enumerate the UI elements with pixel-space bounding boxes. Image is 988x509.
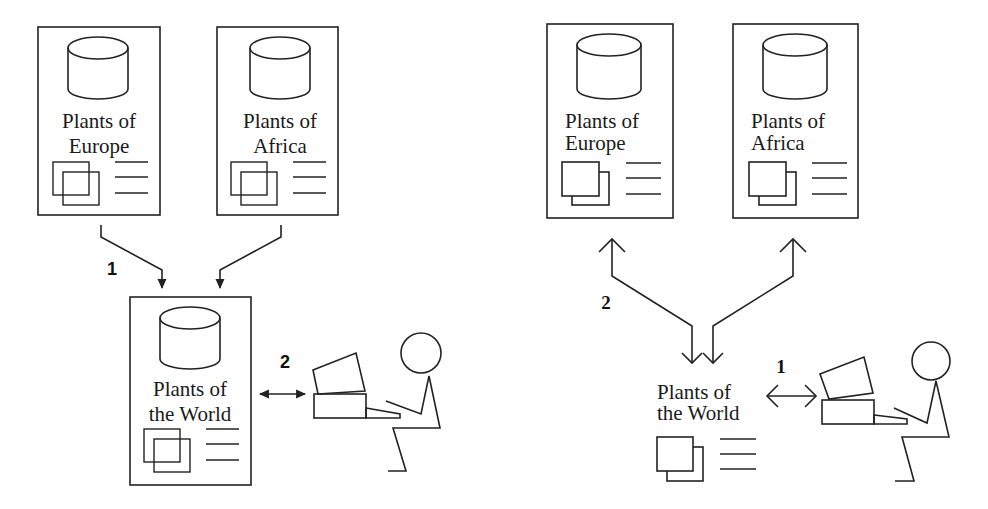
overlapping-squares-icon [657, 437, 703, 481]
source-title-line1: Plants of [751, 109, 825, 133]
user-at-computer-icon [820, 342, 950, 481]
overlapping-squares-icon [562, 162, 609, 205]
step-label-1: 1 [776, 356, 786, 377]
text-lines-icon [812, 163, 847, 194]
ingest-arrows [101, 225, 281, 288]
fanout-arrows [599, 239, 806, 363]
keyboard-icon [874, 415, 907, 424]
person-body-icon [386, 376, 440, 471]
source-title-line1: Plants of [62, 109, 136, 133]
aggregate-title-line2: the World [149, 402, 232, 426]
person-head-icon [401, 333, 441, 373]
source-title-line2: Europe [565, 131, 626, 155]
bidirectional-arrow [767, 385, 816, 407]
user-at-computer-icon [313, 333, 441, 471]
diagram-canvas: Plants of Europe Plants of Africa [0, 0, 988, 509]
source-title-line2: Africa [751, 131, 805, 155]
database-icon [577, 34, 641, 99]
database-icon [160, 307, 220, 369]
overlapping-squares-icon [231, 162, 277, 205]
left-panel: Plants of Europe Plants of Africa [38, 27, 441, 485]
overlapping-squares-icon [749, 162, 796, 205]
database-icon [763, 34, 827, 99]
person-body-icon [894, 381, 949, 481]
source-title-line2: Africa [253, 134, 307, 158]
source-title-line1: Plants of [565, 109, 639, 133]
source-title-line1: Plants of [243, 109, 317, 133]
source-card-africa: Plants of Africa [733, 24, 858, 218]
computer-base-icon [822, 400, 874, 424]
text-lines-icon [293, 162, 326, 193]
step-label-1: 1 [107, 259, 117, 279]
text-lines-icon [115, 162, 148, 193]
portal-title-line2: the World [657, 401, 740, 425]
person-head-icon [912, 342, 950, 380]
overlapping-squares-icon [144, 429, 190, 472]
aggregate-card-world: Plants of the World [130, 297, 251, 485]
text-lines-icon [720, 439, 756, 469]
source-card-europe: Plants of Europe [38, 27, 160, 215]
source-card-africa: Plants of Africa [217, 27, 338, 215]
source-card-europe: Plants of Europe [547, 24, 673, 218]
step-label-2: 2 [280, 352, 290, 372]
right-panel: Plants of Europe Plants of Africa [547, 24, 950, 481]
database-icon [250, 37, 310, 99]
overlapping-squares-icon [53, 162, 99, 205]
step-label-2: 2 [601, 292, 611, 313]
text-lines-icon [626, 163, 661, 194]
aggregate-title-line1: Plants of [153, 377, 227, 401]
text-lines-icon [206, 429, 239, 460]
monitor-icon [820, 357, 873, 399]
portal-world: Plants of the World [657, 380, 756, 481]
monitor-icon [313, 353, 365, 394]
source-title-line2: Europe [69, 134, 130, 158]
keyboard-icon [366, 408, 400, 418]
computer-base-icon [314, 394, 366, 418]
database-icon [68, 37, 128, 99]
